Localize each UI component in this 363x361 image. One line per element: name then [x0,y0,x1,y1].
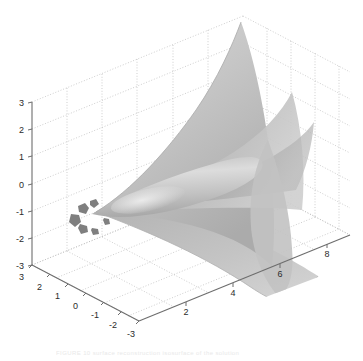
y-axis-tick-labels: 3 2 1 0 -1 -2 -3 [19,272,135,339]
figure-container: 3 2 1 0 -1 -2 -3 3 2 1 0 -1 -2 -3 2 4 6 … [0,0,363,361]
y-tick-label: -2 [109,320,117,330]
y-tick-label: 0 [73,301,78,311]
x-tick-label: 4 [230,288,235,298]
z-tick-label: 2 [19,125,24,135]
y-tick-label: -1 [91,310,99,320]
surface-plot-3d[interactable]: 3 2 1 0 -1 -2 -3 3 2 1 0 -1 -2 -3 2 4 6 … [0,0,363,361]
z-axis-tick-labels: 3 2 1 0 -1 -2 -3 [16,98,24,271]
y-tick-label: 1 [55,291,60,301]
x-tick-label: 8 [324,249,329,259]
x-tick-label: 6 [277,269,282,279]
figure-caption: FIGURE 10 surface reconstruction isosurf… [56,349,346,358]
z-tick-label: -2 [16,234,24,244]
y-tick-label: -3 [127,329,135,339]
isosurface-geometry [69,22,318,302]
z-tick-label: 0 [19,180,24,190]
z-tick-label: 1 [19,152,24,162]
z-tick-label: -3 [16,261,24,271]
z-tick-label: -1 [16,207,24,217]
z-tick-label: 3 [19,98,24,108]
apex-fragments [69,199,110,235]
y-tick-label: 3 [19,272,24,282]
y-tick-label: 2 [37,282,42,292]
x-tick-label: 2 [183,307,188,317]
